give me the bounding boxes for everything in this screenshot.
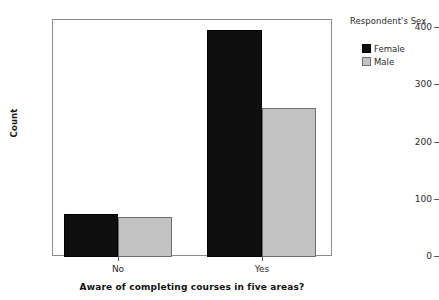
y-tick-mark-300: [434, 84, 439, 85]
legend-items: Female Male: [362, 42, 439, 68]
y-tick-mark-100: [434, 199, 439, 200]
x-axis-title: Aware of completing courses in five area…: [0, 282, 384, 292]
y-tick-label-100: 100: [415, 194, 432, 204]
x-tick-mark-no: [118, 256, 119, 261]
y-tick-200: 200: [387, 137, 439, 147]
bar-no-male[interactable]: [118, 217, 172, 257]
y-tick-mark-200: [434, 142, 439, 143]
x-tick-label-no: No: [98, 264, 138, 274]
y-tick-100: 100: [387, 194, 439, 204]
bar-yes-male[interactable]: [262, 108, 316, 257]
legend-label-male: Male: [374, 57, 394, 67]
legend-swatch-female-icon: [362, 44, 371, 53]
legend-swatch-male-icon: [362, 57, 371, 66]
y-axis-title: Count: [9, 93, 19, 153]
x-tick-label-yes: Yes: [242, 264, 282, 274]
y-tick-mark-0: [434, 256, 439, 257]
x-tick-mark-yes: [262, 256, 263, 261]
legend-label-female: Female: [374, 44, 405, 54]
legend-title: Respondent's Sex: [350, 16, 439, 26]
y-tick-label-200: 200: [415, 137, 432, 147]
y-tick-label-0: 0: [426, 251, 432, 261]
legend: Respondent's Sex Female Male: [350, 16, 439, 68]
bar-yes-female[interactable]: [207, 30, 262, 257]
bar-chart: Count 400 300 200 100 0 No Yes Aware of …: [0, 0, 439, 300]
y-tick-label-300: 300: [415, 79, 432, 89]
y-tick-0: 0: [387, 251, 439, 261]
y-tick-300: 300: [387, 79, 439, 89]
bar-no-female[interactable]: [64, 214, 118, 257]
legend-item-male[interactable]: Male: [362, 55, 439, 68]
legend-item-female[interactable]: Female: [362, 42, 439, 55]
